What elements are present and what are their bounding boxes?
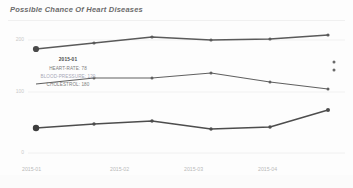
- title-divider: [8, 20, 345, 21]
- x-axis-tick-2015-04: 2015-04: [258, 166, 277, 172]
- x-axis-tick-2015-01: 2015-01: [22, 166, 41, 172]
- series-heart-rate: [33, 108, 330, 131]
- gridlines: [28, 40, 345, 153]
- series-blood-pressure: [36, 69, 336, 91]
- series-cholestrol: [33, 33, 336, 63]
- chart-card: Possible Chance Of Heart Diseases 200 10…: [0, 0, 353, 188]
- x-axis-tick-2015-03: 2015-03: [184, 166, 203, 172]
- x-axis-tick-2015-02: 2015-02: [110, 166, 129, 172]
- bottom-band: [0, 175, 353, 188]
- chart-title: Possible Chance Of Heart Diseases: [10, 5, 143, 14]
- plot-area[interactable]: [0, 22, 353, 162]
